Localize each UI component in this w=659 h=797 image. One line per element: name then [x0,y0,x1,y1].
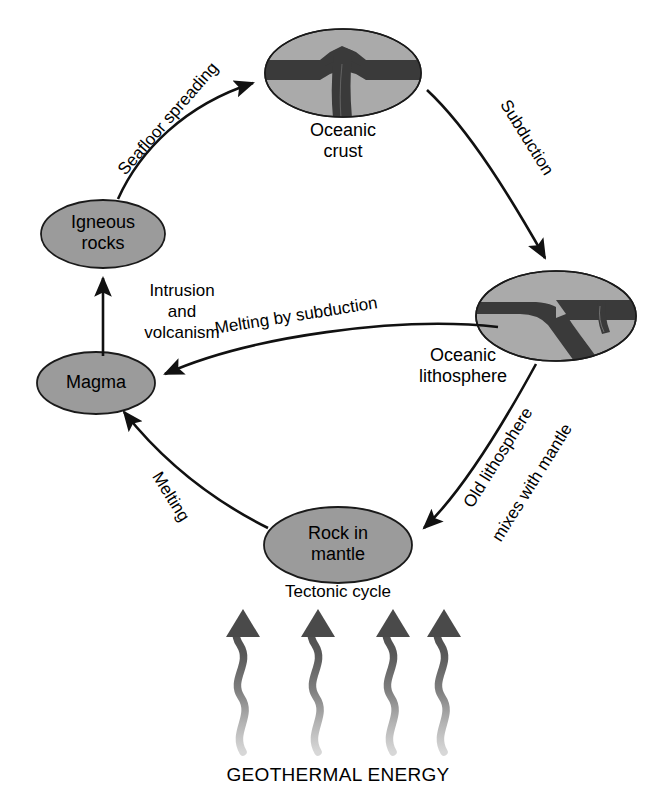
arrow-subduction [427,90,545,258]
heat-arrowhead-4 [427,609,461,637]
node-label-igneous-rocks: Igneous rocks [41,212,165,254]
caption-oceanic-crust-line2: crust [283,141,403,162]
node-label-magma: Magma [36,372,156,393]
arrow-label-intrusion-line2: and [122,301,242,322]
caption-oceanic-crust-line1: Oceanic [283,120,403,141]
caption-oceanic-lithosphere-line1: Oceanic [393,345,533,366]
geothermal-arrowheads [226,609,461,637]
node-label-magma-line1: Magma [36,372,156,393]
arrow-label-intrusion-line1: Intrusion [122,280,242,301]
node-label-igneous-rocks-line1: Igneous [41,212,165,233]
heat-arrow-1 [236,623,245,752]
caption-oceanic-lithosphere: Oceanic lithosphere [393,345,533,387]
node-label-rock-in-mantle-line1: Rock in [268,523,408,544]
node-label-rock-in-mantle: Rock in mantle [268,523,408,565]
tectonic-cycle-diagram: Igneous rocks Magma Rock in mantle Ocean… [0,0,659,797]
arrow-label-intrusion-line3: volcanism [122,322,242,343]
heat-arrowhead-3 [376,609,410,637]
node-label-rock-in-mantle-line2: mantle [268,544,408,565]
caption-oceanic-crust: Oceanic crust [283,120,403,162]
heat-arrowhead-1 [226,609,260,637]
arrow-label-intrusion-and-volcanism: Intrusion and volcanism [122,280,242,343]
heat-arrow-3 [386,623,395,752]
diagram-title: Tectonic cycle [238,581,438,602]
geothermal-energy-caption: GEOTHERMAL ENERGY [168,764,508,785]
geothermal-energy-arrows [236,623,446,752]
caption-oceanic-lithosphere-line2: lithosphere [393,366,533,387]
inset-oceanic-crust [262,29,424,118]
heat-arrow-4 [437,623,446,752]
node-label-igneous-rocks-line2: rocks [41,233,165,254]
heat-arrowhead-2 [301,609,335,637]
heat-arrow-2 [311,623,320,752]
